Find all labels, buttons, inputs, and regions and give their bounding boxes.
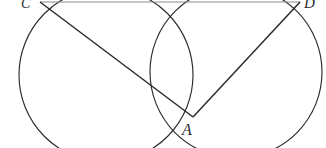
vertex-label-c: C [21,0,30,11]
geometry-figure: C D A [0,0,326,148]
vertex-label-a: A [182,122,192,138]
vertex-label-d: D [304,0,315,11]
left-circle [19,0,193,148]
figure-canvas [0,0,326,148]
chord-ca [40,2,193,117]
chord-da [193,2,300,117]
